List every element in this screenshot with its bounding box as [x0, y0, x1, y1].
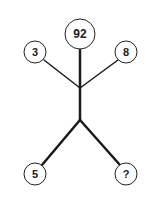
- right-arm-line: [80, 60, 118, 88]
- left-arm-line: [44, 60, 80, 88]
- stick-figure-diagram: 92 3 8 5 ?: [0, 0, 149, 205]
- left-hand-value: 3: [32, 46, 38, 58]
- right-leg-line: [80, 120, 120, 165]
- right-foot-value: ?: [123, 168, 130, 180]
- right-hand-value: 8: [123, 46, 129, 58]
- head-value: 92: [73, 27, 87, 41]
- left-foot-value: 5: [32, 168, 38, 180]
- left-leg-line: [42, 120, 80, 165]
